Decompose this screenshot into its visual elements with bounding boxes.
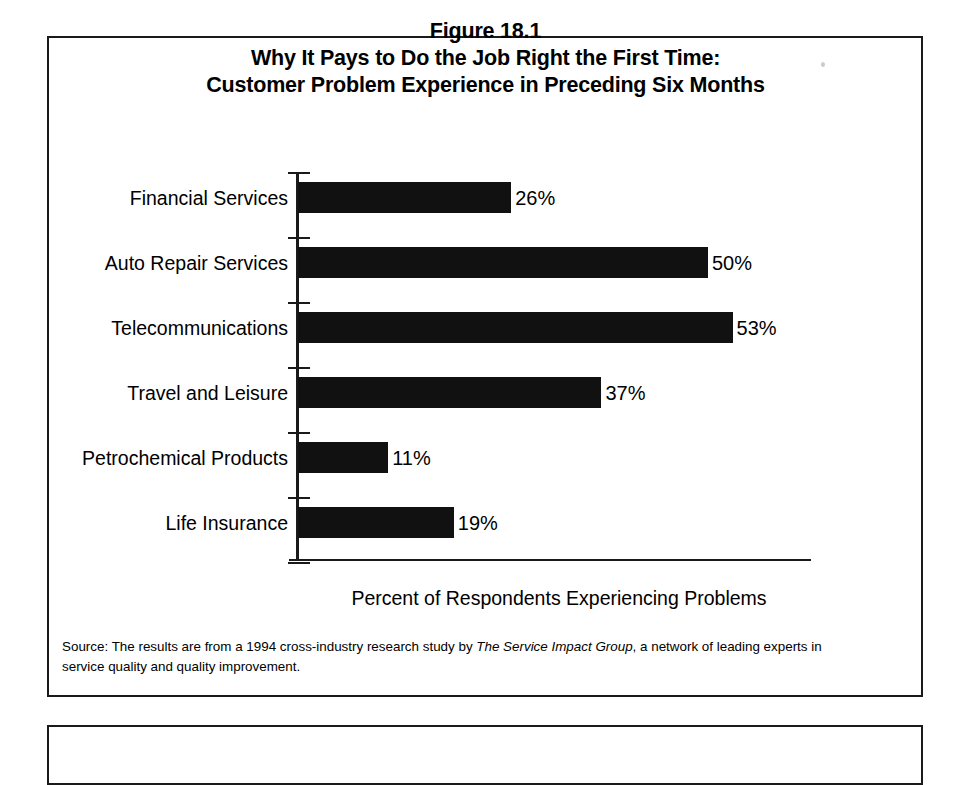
bar-row: Life Insurance19% [0,507,876,538]
figure-title-line-2: Customer Problem Experience in Preceding… [0,72,971,99]
y-axis-tick [288,367,310,369]
bar [298,182,511,213]
category-label: Petrochemical Products [82,446,288,469]
bar-value-label: 11% [388,446,431,469]
bar [298,442,388,473]
bar [298,247,708,278]
figure-title-block: Figure 18.1 Why It Pays to Do the Job Ri… [0,18,971,99]
y-axis-line [296,172,299,560]
bar [298,377,601,408]
bar-value-label: 26% [511,186,555,209]
bar-value-label: 50% [708,251,752,274]
figure-number: Figure 18.1 [0,18,971,45]
secondary-figure-frame [47,725,923,785]
source-note-org: The Service Impact Group [476,639,632,654]
y-axis-tick [288,302,310,304]
y-axis-tick [288,497,310,499]
bar [298,312,733,343]
bar-row: Financial Services26% [0,182,876,213]
category-label: Travel and Leisure [127,381,288,404]
category-label: Life Insurance [166,511,289,534]
category-label: Financial Services [130,186,288,209]
bar-chart-plot-area: Financial Services26%Auto Repair Service… [0,140,876,540]
y-axis-tick [288,172,310,174]
bar-row: Auto Repair Services50% [0,247,876,278]
category-label: Auto Repair Services [105,251,288,274]
x-axis-line [289,559,811,561]
source-note: Source: The results are from a 1994 cros… [62,637,862,676]
bar-row: Petrochemical Products11% [0,442,876,473]
figure-title-line-1: Why It Pays to Do the Job Right the Firs… [0,45,971,72]
bar-value-label: 19% [454,511,498,534]
bar-value-label: 53% [733,316,777,339]
bar [298,507,454,538]
category-label: Telecommunications [111,316,288,339]
source-note-prefix: Source: The results are from a 1994 cros… [62,639,476,654]
y-axis-tick [288,237,310,239]
y-axis-tick [288,562,310,564]
bar-row: Telecommunications53% [0,312,876,343]
x-axis-label: Percent of Respondents Experiencing Prob… [289,587,829,610]
bar-value-label: 37% [601,381,645,404]
y-axis-tick [288,432,310,434]
bar-row: Travel and Leisure37% [0,377,876,408]
